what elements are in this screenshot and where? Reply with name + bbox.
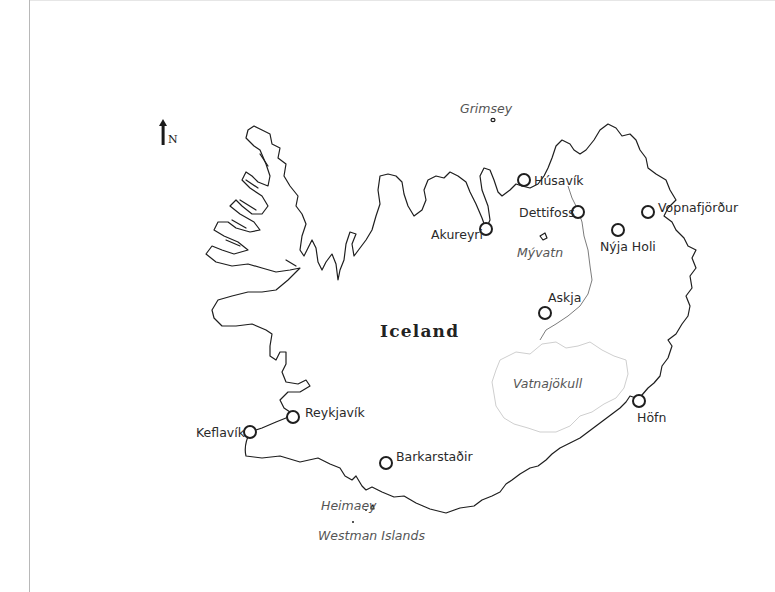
feature-label-vatnajokull: Vatnajökull [513,378,582,391]
city-label-hofn: Höfn [637,412,666,425]
feature-label-westman-islands: Westman Islands [318,530,425,543]
north-label: N [168,133,178,146]
feature-label-heimaey: Heimaey [321,500,377,513]
city-marker-hofn[interactable] [633,395,645,407]
city-label-reykjavik: Reykjavík [305,407,365,420]
city-label-dettifoss: Dettifoss [519,207,575,220]
city-marker-husavik[interactable] [518,174,530,186]
city-marker-askja[interactable] [539,307,551,319]
feature-label-grimsey: Grimsey [460,103,512,116]
myvatn-lake [540,233,547,240]
westman-dot [352,521,354,523]
city-marker-reykjavik[interactable] [287,411,299,423]
city-label-akureyri: Akureyri [431,229,483,242]
city-label-nyja-holi: Nýja Holi [600,241,656,254]
city-marker-nyja-holi[interactable] [612,224,624,236]
map-title: Iceland [380,321,459,341]
city-marker-barkarstadir[interactable] [380,457,392,469]
city-label-keflavik: Keflavík [196,427,245,440]
feature-label-myvatn: Mývatn [517,247,563,260]
city-label-askja: Askja [548,292,581,305]
iceland-map [0,0,775,592]
city-marker-keflavik[interactable] [244,426,256,438]
city-label-vopnafjordur: Vopnafjörður [658,202,738,215]
city-label-barkarstadir: Barkarstaðir [396,451,473,464]
grimsey-island [491,118,495,121]
city-label-husavik: Húsavík [534,175,584,188]
westfjord-inlets [226,154,296,266]
city-marker-vopnafjordur[interactable] [642,206,654,218]
